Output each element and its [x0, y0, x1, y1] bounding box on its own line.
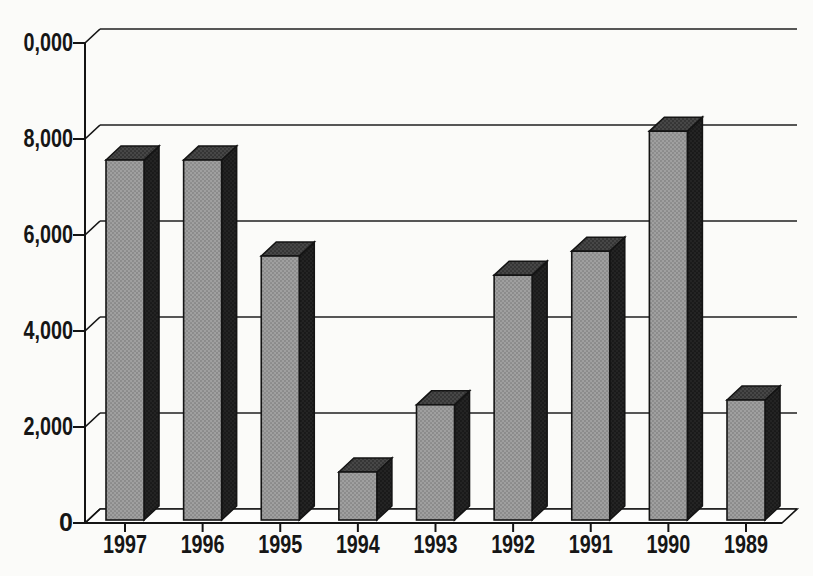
- x-label-1996: 1996: [181, 530, 225, 558]
- bar-front-face: [727, 400, 765, 520]
- bar-1995: [261, 242, 314, 520]
- bar-side-face: [222, 146, 237, 520]
- bar-front-face: [184, 160, 222, 520]
- x-label-1997: 1997: [103, 530, 147, 558]
- y-label-10000: 0,000: [24, 28, 74, 56]
- y-label-2000: 2,000: [24, 412, 74, 440]
- bar-1996: [184, 146, 237, 520]
- bar-1992: [494, 261, 547, 520]
- x-label-1994: 1994: [336, 530, 380, 558]
- bar-1989: [727, 386, 780, 520]
- bar-front-face: [106, 160, 144, 520]
- bar-side-face: [144, 146, 159, 520]
- page: 1997199619951994199319921991199019890,00…: [0, 0, 813, 576]
- bar-front-face: [572, 251, 610, 520]
- x-label-1991: 1991: [569, 530, 613, 558]
- bar-1991: [572, 237, 625, 520]
- bar-side-face: [610, 237, 625, 520]
- bar-1997: [106, 146, 159, 520]
- bar-1994: [339, 458, 392, 520]
- x-label-1990: 1990: [646, 530, 690, 558]
- bar-side-face: [765, 386, 780, 520]
- bar-1993: [417, 391, 470, 520]
- bar-side-face: [299, 242, 314, 520]
- bar-side-face: [687, 117, 702, 520]
- y-label-0: 0: [59, 508, 73, 536]
- x-label-1993: 1993: [414, 530, 458, 558]
- y-label-6000: 6,000: [24, 220, 74, 248]
- x-label-1992: 1992: [491, 530, 535, 558]
- bar-side-face: [455, 391, 470, 520]
- y-label-4000: 4,000: [24, 316, 74, 344]
- bar-front-face: [261, 256, 299, 520]
- bar-1990: [649, 117, 702, 520]
- bar-front-face: [494, 275, 532, 520]
- bar-front-face: [417, 405, 455, 520]
- bar-front-face: [649, 131, 687, 520]
- bar-side-face: [532, 261, 547, 520]
- y-label-8000: 8,000: [24, 124, 74, 152]
- bar-chart-canvas: 1997199619951994199319921991199019890,00…: [0, 0, 813, 576]
- x-label-1995: 1995: [258, 530, 302, 558]
- x-label-1989: 1989: [724, 530, 768, 558]
- bar-front-face: [339, 472, 377, 520]
